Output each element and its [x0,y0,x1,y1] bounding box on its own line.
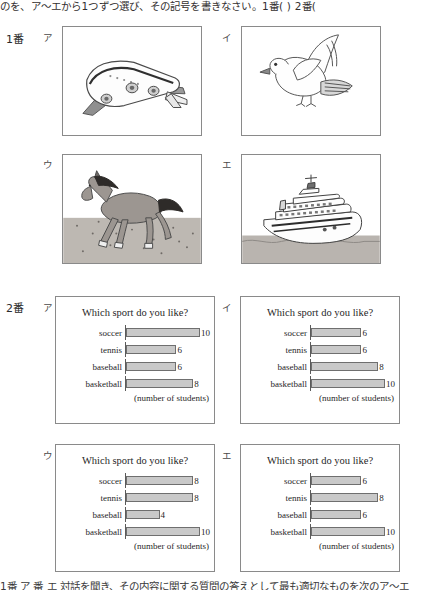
bar-row: soccer 8 [60,473,210,488]
q2-choice-letter-e: エ [222,448,232,462]
bar-track: 4 [125,507,210,522]
footer-text: 1番 ア 番 エ 対話を聞き、その内容に関する質問の答えとして最も適切なものを次… [0,578,422,590]
q2-chart-i[interactable]: Which sport do you like? soccer 6 tennis… [240,296,400,424]
bar-row: soccer 6 [245,325,395,340]
bar-value-label: 6 [362,328,367,338]
bar-value-label: 10 [201,328,210,338]
bar-row: baseball 6 [245,507,395,522]
bar-value-label: 6 [177,362,182,372]
q1-choice-letter-a: ア [43,30,53,44]
bar-row: tennis 8 [245,490,395,505]
bar-fill [126,510,160,519]
chart-plot-area: soccer 10 tennis 6 baseball 6 basketball [60,325,210,391]
bar-track: 6 [125,342,210,357]
bar-category-label: baseball [245,362,310,372]
bar-category-label: tennis [245,493,310,503]
bar-value-label: 10 [386,379,395,389]
q2-choice-letter-a: ア [43,300,53,314]
bar-fill [311,362,378,371]
bar-fill [311,510,361,519]
bar-value-label: 6 [362,345,367,355]
q1-choice-letter-u: ウ [43,157,53,171]
question2-label: 2番 [6,299,25,315]
bar-category-label: baseball [60,362,125,372]
q1-panel-u-horse[interactable] [62,154,202,264]
bar-track: 8 [125,490,210,505]
bar-fill [126,345,176,354]
bar-row: baseball 4 [60,507,210,522]
bar-value-label: 8 [379,362,384,372]
bar-fill [126,493,193,502]
q1-panel-a-airplane[interactable] [62,26,202,136]
chart-title: Which sport do you like? [56,307,214,318]
q2-choice-letter-u: ウ [43,448,53,462]
bar-row: tennis 8 [60,490,210,505]
bar-row: baseball 6 [60,359,210,374]
chart-title: Which sport do you like? [241,307,399,318]
bar-value-label: 6 [362,476,367,486]
chart-axis-note: (number of students) [56,541,214,551]
bar-category-label: tennis [60,493,125,503]
bar-track: 8 [125,376,210,391]
bar-category-label: basketball [60,527,125,537]
bird-illustration [242,27,380,135]
bar-row: basketball 10 [245,524,395,539]
bar-category-label: soccer [60,476,125,486]
horse-illustration [63,155,201,263]
bar-track: 10 [125,524,210,539]
bar-fill [311,379,385,388]
bar-value-label: 8 [194,476,199,486]
bar-track: 8 [125,473,210,488]
q1-choice-letter-i: イ [222,30,232,44]
bar-row: basketball 10 [245,376,395,391]
chart-plot-area: soccer 6 tennis 6 baseball 8 basketball [245,325,395,391]
bar-value-label: 4 [161,510,166,520]
bar-value-label: 8 [379,493,384,503]
bar-value-label: 8 [194,379,199,389]
q2-chart-e[interactable]: Which sport do you like? soccer 6 tennis… [240,444,400,572]
bar-row: tennis 6 [60,342,210,357]
bar-category-label: basketball [60,379,125,389]
bar-track: 10 [310,376,395,391]
bar-track: 6 [310,325,395,340]
bar-fill [126,527,200,536]
bar-category-label: baseball [60,510,125,520]
chart-axis-note: (number of students) [56,393,214,403]
bar-fill [311,476,361,485]
chart-axis-note: (number of students) [241,541,399,551]
q1-choice-letter-e: エ [222,157,232,171]
airplane-illustration [63,27,201,135]
bar-fill [126,476,193,485]
q2-choice-letter-i: イ [222,300,232,314]
bar-row: soccer 10 [60,325,210,340]
chart-plot-area: soccer 8 tennis 8 baseball 4 basketball [60,473,210,539]
bar-row: baseball 8 [245,359,395,374]
bar-value-label: 8 [194,493,199,503]
q2-chart-a[interactable]: Which sport do you like? soccer 10 tenni… [55,296,215,424]
q2-chart-u[interactable]: Which sport do you like? soccer 8 tennis… [55,444,215,572]
bar-track: 8 [310,359,395,374]
bar-fill [311,493,378,502]
bar-category-label: soccer [245,476,310,486]
bar-value-label: 6 [177,345,182,355]
q1-panel-i-bird[interactable] [241,26,381,136]
bar-category-label: basketball [245,379,310,389]
q1-panel-e-ship[interactable] [241,154,381,264]
bar-value-label: 10 [201,527,210,537]
chart-plot-area: soccer 6 tennis 8 baseball 6 basketball [245,473,395,539]
ship-illustration [242,155,380,263]
bar-fill [311,527,385,536]
bar-fill [311,345,361,354]
bar-track: 6 [310,342,395,357]
bar-fill [126,362,176,371]
bar-value-label: 6 [362,510,367,520]
bar-track: 6 [310,473,395,488]
bar-row: soccer 6 [245,473,395,488]
bar-category-label: tennis [245,345,310,355]
chart-title: Which sport do you like? [241,455,399,466]
bar-category-label: soccer [245,328,310,338]
bar-fill [126,328,200,337]
bar-fill [126,379,193,388]
instruction-text: のを、ア〜エから1つずつ選び、その記号を書きなさい。1番( ) 2番( [0,0,422,14]
chart-title: Which sport do you like? [56,455,214,466]
